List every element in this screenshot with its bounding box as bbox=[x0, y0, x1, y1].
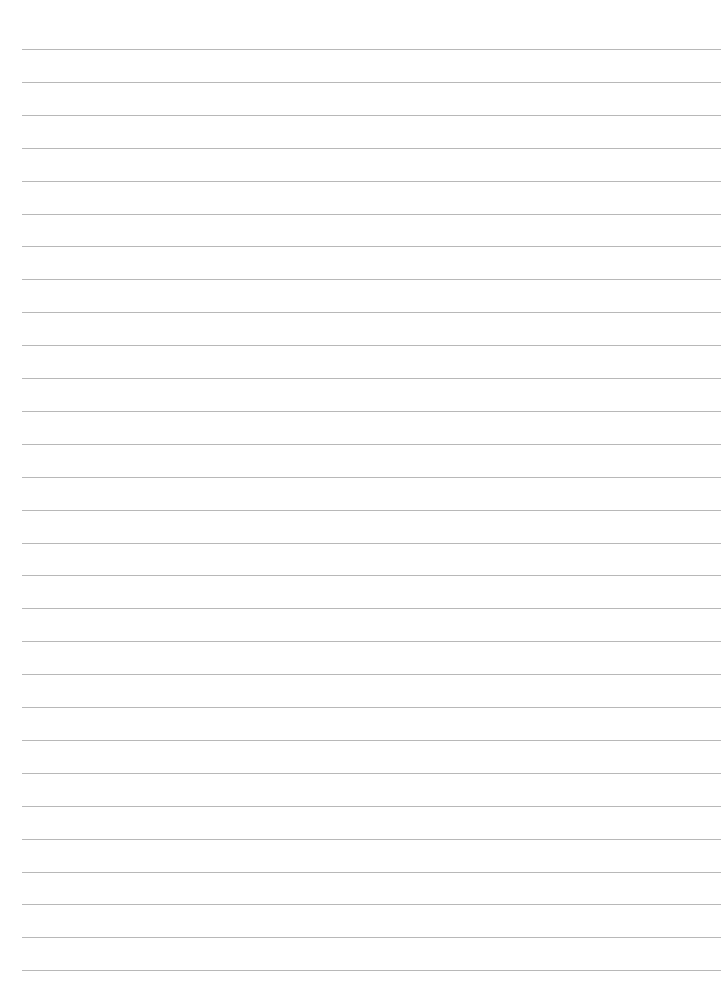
ruled-line bbox=[22, 806, 721, 807]
ruled-line bbox=[22, 740, 721, 741]
ruled-line bbox=[22, 674, 721, 675]
ruled-line bbox=[22, 279, 721, 280]
ruled-line bbox=[22, 937, 721, 938]
ruled-line bbox=[22, 148, 721, 149]
ruled-line bbox=[22, 904, 721, 905]
ruled-line bbox=[22, 444, 721, 445]
ruled-line bbox=[22, 181, 721, 182]
ruled-line bbox=[22, 246, 721, 247]
ruled-line bbox=[22, 49, 721, 50]
ruled-line bbox=[22, 575, 721, 576]
ruled-line bbox=[22, 82, 721, 83]
ruled-line bbox=[22, 510, 721, 511]
ruled-line bbox=[22, 378, 721, 379]
ruled-line bbox=[22, 543, 721, 544]
ruled-line bbox=[22, 707, 721, 708]
ruled-line bbox=[22, 115, 721, 116]
ruled-line bbox=[22, 773, 721, 774]
ruled-line bbox=[22, 608, 721, 609]
ruled-line bbox=[22, 641, 721, 642]
ruled-line bbox=[22, 872, 721, 873]
ruled-line bbox=[22, 214, 721, 215]
ruled-line bbox=[22, 345, 721, 346]
ruled-line bbox=[22, 312, 721, 313]
lined-paper-sheet bbox=[0, 0, 727, 990]
ruled-line bbox=[22, 839, 721, 840]
ruled-line bbox=[22, 477, 721, 478]
ruled-line bbox=[22, 970, 721, 971]
ruled-line bbox=[22, 411, 721, 412]
